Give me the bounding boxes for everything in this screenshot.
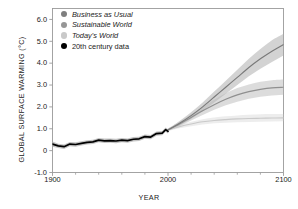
uncertainty-band [53, 127, 169, 148]
legend-marker-icon [61, 32, 67, 38]
legend-item-label: Business as Usual [72, 10, 133, 19]
legend-item-label: Today's World [72, 31, 118, 40]
legend-item-label: Sustainable World [72, 20, 132, 29]
legend-item-label: 20th century data [72, 42, 129, 51]
legend-item: Business as Usual [61, 9, 133, 20]
legend-item: Sustainable World [61, 20, 133, 31]
chart-figure: GLOBAL SURFACE WARMING (°C) YEAR 6.05.04… [0, 0, 298, 209]
legend-marker-icon [61, 22, 67, 28]
legend-marker-icon [61, 43, 67, 49]
chart-legend: Business as UsualSustainable WorldToday'… [61, 9, 133, 51]
legend-item: Today's World [61, 30, 133, 41]
legend-item: 20th century data [61, 41, 133, 52]
legend-marker-icon [61, 11, 67, 17]
plot-area [0, 0, 298, 209]
